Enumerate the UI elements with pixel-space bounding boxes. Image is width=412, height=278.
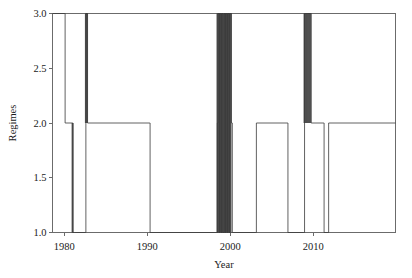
y-tick-label: 2.0 [33,118,46,129]
x-axis-title: Year [214,259,234,270]
x-tick-label: 2010 [303,241,324,252]
x-tick-label: 2000 [220,241,241,252]
regime-3-spike-band [304,14,311,124]
regimes-line-chart: 1.01.52.02.53.0 1980199020002010 Regimes… [0,0,412,278]
regime-transition-band [72,123,73,233]
y-tick-label: 1.0 [33,227,46,238]
regime-3-spike-band [85,14,87,124]
y-tick-label: 1.5 [33,172,46,183]
chart-figure: 1.01.52.02.53.0 1980199020002010 Regimes… [0,0,412,278]
y-tick-label: 2.5 [33,63,46,74]
x-tick-label: 1980 [54,241,75,252]
chart-background [0,0,412,278]
y-axis-title: Regimes [7,105,18,142]
x-tick-label: 1990 [137,241,158,252]
dense-oscillation-cluster [217,14,231,233]
y-tick-label: 3.0 [33,8,46,19]
